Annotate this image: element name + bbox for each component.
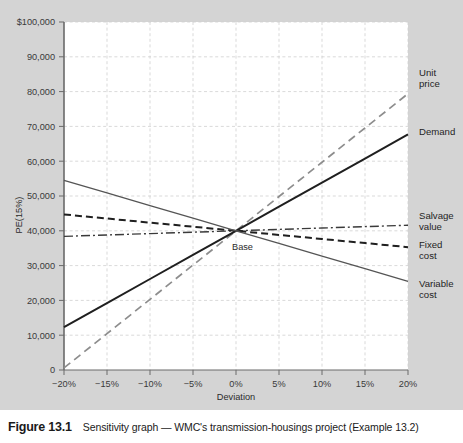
figure-number: Figure 13.1 (8, 420, 72, 434)
figure-page: 010,00020,00030,00040,00050,00060,00070,… (0, 0, 463, 443)
x-tick-label--10: −10% (138, 379, 162, 389)
x-tick-label--20: −20% (52, 379, 76, 389)
y-tick-label-20000: 20,000 (27, 296, 55, 306)
figure-caption: Figure 13.1 Sensitivity graph — WMC's tr… (0, 410, 463, 443)
y-tick-label-40000: 40,000 (27, 226, 55, 236)
x-tick-label-0: 0% (229, 379, 242, 389)
x-axis-tick-labels: −20%−15%−10%−5%0%5%10%15%20% (52, 379, 417, 389)
x-axis-tick-marks (64, 370, 408, 375)
y-tick-label-30000: 30,000 (27, 261, 55, 271)
y-tick-label-70000: 70,000 (27, 122, 55, 132)
x-tick-label--5: −5% (184, 379, 203, 389)
y-tick-label-60000: 60,000 (27, 157, 55, 167)
y-tick-label-100000: $100,000 (17, 17, 55, 27)
y-axis-tick-labels: 010,00020,00030,00040,00050,00060,00070,… (17, 17, 55, 375)
y-axis-title: PE(15%) (14, 197, 24, 234)
series-label-salvage-value: Salvage (419, 210, 454, 221)
series-label-salvage-value-line2: value (419, 221, 442, 232)
x-tick-label-20: 20% (399, 379, 417, 389)
sensitivity-graph: 010,00020,00030,00040,00050,00060,00070,… (0, 0, 463, 410)
y-tick-label-90000: 90,000 (27, 52, 55, 62)
x-tick-label-5: 5% (272, 379, 285, 389)
series-label-fixed-cost-line2: cost (419, 250, 437, 261)
series-label-unit-price-line2: price (419, 78, 440, 89)
y-tick-label-80000: 80,000 (27, 87, 55, 97)
series-label-unit-price: Unit (419, 67, 436, 78)
x-tick-label-10: 10% (313, 379, 331, 389)
x-axis-title: Deviation (217, 392, 255, 402)
y-tick-label-50000: 50,000 (27, 191, 55, 201)
series-label-fixed-cost: Fixed (419, 239, 442, 250)
series-labels: UnitpriceDemandSalvagevalueFixedcostVari… (419, 67, 455, 301)
y-tick-label-0: 0 (50, 365, 55, 375)
base-point-label: Base (232, 242, 253, 252)
x-tick-label--15: −15% (95, 379, 119, 389)
y-tick-label-10000: 10,000 (27, 331, 55, 341)
series-label-variable-cost: Variable (419, 278, 454, 289)
x-tick-label-15: 15% (356, 379, 374, 389)
series-label-variable-cost-line2: cost (419, 289, 437, 300)
figure-caption-text: Sensitivity graph — WMC's transmission-h… (83, 421, 419, 433)
series-label-demand: Demand (419, 126, 455, 137)
chart-figure-area: 010,00020,00030,00040,00050,00060,00070,… (0, 0, 463, 410)
